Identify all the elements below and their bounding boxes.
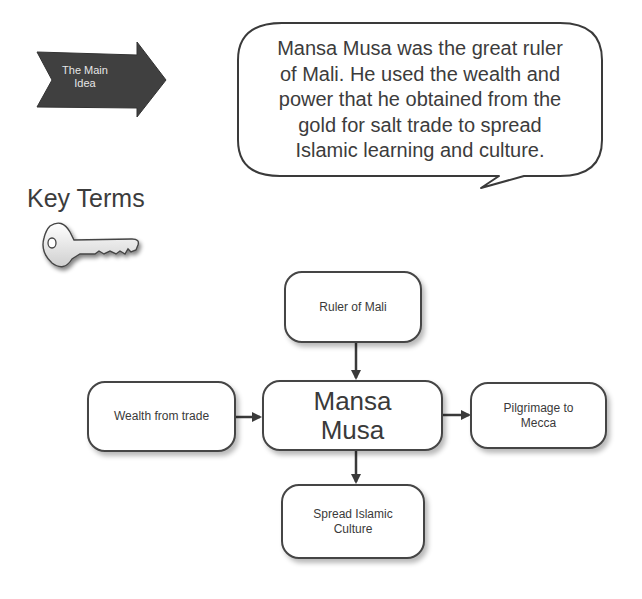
node-ruler-of-mali: Ruler of Mali: [284, 271, 422, 343]
node-wealth-from-trade: Wealth from trade: [87, 381, 236, 452]
node-pilgrimage-to-mecca: Pilgrimage to Mecca: [470, 382, 607, 449]
center-label-line: Musa: [313, 416, 391, 445]
node-label: Wealth from trade: [114, 409, 209, 424]
node-mansa-musa: Mansa Musa: [262, 380, 443, 451]
center-label-line: Mansa: [313, 387, 391, 416]
node-label-line: Mecca: [503, 416, 573, 431]
node-label: Ruler of Mali: [319, 300, 386, 315]
node-spread-islamic-culture: Spread Islamic Culture: [281, 484, 425, 559]
node-label-line: Pilgrimage to: [503, 401, 573, 416]
node-label-line: Culture: [313, 522, 392, 537]
node-label-line: Spread Islamic: [313, 507, 392, 522]
